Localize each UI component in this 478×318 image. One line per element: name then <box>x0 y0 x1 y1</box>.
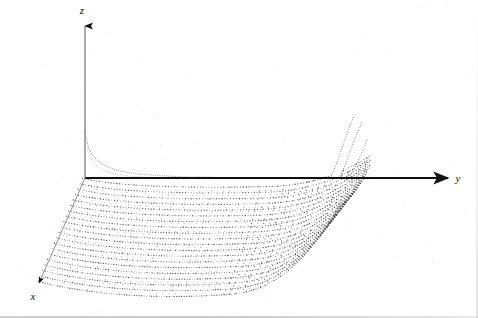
y-axis-label: y <box>455 172 461 184</box>
x-axis-line <box>39 178 85 283</box>
x-axis-label: x <box>30 290 36 302</box>
axis-group <box>39 26 448 283</box>
surface-mesh <box>37 155 371 297</box>
z-axis-label: z <box>79 4 85 16</box>
origin-hyperbola-curve <box>84 127 226 178</box>
scan-speckle <box>22 5 471 313</box>
figure-canvas: z y x <box>0 0 478 318</box>
surface-plot-svg: z y x <box>0 0 478 318</box>
